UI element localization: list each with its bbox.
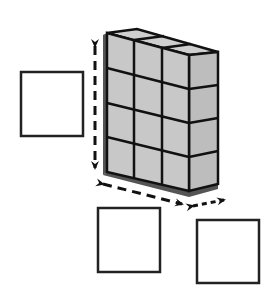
width-arrow xyxy=(193,200,224,206)
cube-prism-diagram xyxy=(0,0,279,299)
height-answer-box[interactable] xyxy=(21,72,83,136)
prism-front-face xyxy=(107,33,189,191)
length-answer-box[interactable] xyxy=(98,208,160,272)
width-answer-box[interactable] xyxy=(197,220,259,283)
prism-side-face xyxy=(189,52,218,191)
